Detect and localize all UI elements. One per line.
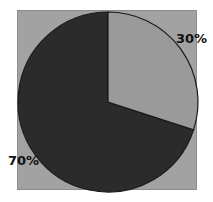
slice-label-30: 30%	[176, 32, 207, 45]
pie-chart-figure: 30% 70%	[0, 0, 213, 202]
slice-label-70: 70%	[8, 154, 39, 167]
